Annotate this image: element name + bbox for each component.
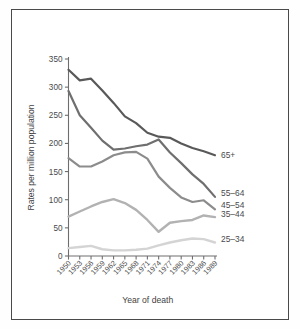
series-line-55-64 [69,91,216,197]
y-tick-label: 200 [49,139,63,148]
x-axis-title: Year of death [122,295,173,305]
y-tick-label: 150 [49,168,63,177]
series-label-65+: 65+ [221,150,235,160]
chart-figure: 050100150200250300350 195019531956195919… [0,0,300,329]
x-axis: 1950195319561959196219651968197119741977… [55,256,219,277]
series-label-35-44: 35–44 [221,209,245,219]
line-chart: 050100150200250300350 195019531956195919… [0,0,300,329]
series-line-45-54 [69,152,216,209]
series-label-55-64: 55–64 [221,188,245,198]
y-tick-label: 100 [49,196,63,205]
x-tick-labels: 1950195319561959196219651968197119741977… [55,259,219,277]
series-line-65+ [69,70,216,156]
y-tick-labels: 050100150200250300350 [49,55,63,261]
y-tick-label: 50 [53,224,63,233]
y-tick-label: 300 [49,83,63,92]
series-labels-group: 65+55–6445–5435–4425–34 [221,150,245,244]
y-axis: 050100150200250300350 [49,55,69,261]
series-line-25-34 [69,239,216,251]
data-series-group [69,70,216,251]
series-line-35-44 [69,199,216,232]
y-tick-label: 350 [49,55,63,64]
series-label-45-54: 45–54 [221,200,245,210]
series-label-25-34: 25–34 [221,234,245,244]
y-tick-label: 0 [58,252,63,261]
y-axis-title: Rates per million population [26,104,36,210]
y-tick-label: 250 [49,111,63,120]
